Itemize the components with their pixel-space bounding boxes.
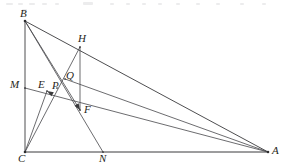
point-label-P: P — [52, 80, 59, 91]
vertex-dot-M — [24, 87, 26, 89]
segment-CE — [25, 91, 47, 152]
point-label-Q: Q — [66, 70, 74, 81]
point-label-A: A — [272, 145, 279, 156]
point-label-M: M — [10, 79, 19, 90]
vertex-dot-F — [79, 109, 81, 111]
point-label-C: C — [18, 153, 25, 164]
point-label-N: N — [99, 153, 106, 164]
segment-BA — [25, 21, 268, 152]
vertex-dot-B — [24, 20, 27, 23]
segment-MA — [25, 88, 268, 152]
point-label-H: H — [78, 33, 86, 44]
geometry-figure: B H M E P Q F C N A — [0, 0, 287, 167]
vertex-dot-E — [46, 90, 48, 92]
point-label-B: B — [20, 8, 27, 19]
point-label-F: F — [84, 104, 91, 115]
point-label-E: E — [38, 79, 45, 90]
vertex-dot-A — [267, 151, 270, 154]
segment-BF — [25, 21, 80, 110]
lines-group — [25, 21, 268, 152]
vertex-dot-H — [79, 46, 81, 48]
segment-QA — [65, 79, 268, 152]
